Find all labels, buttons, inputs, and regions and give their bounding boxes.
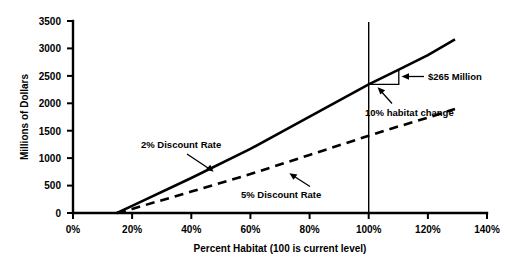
x-tick-label-40: 40% xyxy=(181,224,201,235)
habitat-change-arrowhead-icon xyxy=(378,87,386,94)
y-tick-label-1500: 1500 xyxy=(39,126,62,137)
y-tick-label-1000: 1000 xyxy=(39,153,62,164)
series-label-5pct: 5% Discount Rate xyxy=(241,189,321,200)
habitat-change-text: 10% habitat change xyxy=(365,107,454,118)
y-tick-label-2000: 2000 xyxy=(39,98,62,109)
y-tick-label-2500: 2500 xyxy=(39,71,62,82)
x-tick-label-80: 80% xyxy=(300,224,320,235)
x-tick-label-0: 0% xyxy=(66,224,81,235)
x-tick-label-20: 20% xyxy=(122,224,142,235)
chart-plot-area: 3500 3000 2500 2000 1500 1000 500 0 0% 2… xyxy=(0,0,521,269)
series-label-2pct-leader xyxy=(187,154,211,170)
y-tick-label-3000: 3000 xyxy=(39,43,62,54)
x-tick-label-140: 140% xyxy=(474,224,500,235)
x-tick-label-120: 120% xyxy=(415,224,441,235)
series-line-2pct xyxy=(117,39,455,213)
y-tick-label-500: 500 xyxy=(44,180,61,191)
x-tick-label-60: 60% xyxy=(240,224,260,235)
y-tick-label-0: 0 xyxy=(55,208,61,219)
value-callout-text: $265 Million xyxy=(428,71,482,82)
value-callout-arrowhead-icon xyxy=(402,73,410,80)
y-axis-title: Millions of Dollars xyxy=(19,74,30,161)
series-label-5pct-arrowhead-icon xyxy=(289,173,297,180)
x-axis-title: Percent Habitat (100 is current level) xyxy=(194,243,367,254)
chart-figure: 3500 3000 2500 2000 1500 1000 500 0 0% 2… xyxy=(0,0,521,269)
x-tick-label-100: 100% xyxy=(356,224,382,235)
y-tick-label-3500: 3500 xyxy=(39,16,62,27)
series-label-2pct: 2% Discount Rate xyxy=(141,139,221,150)
